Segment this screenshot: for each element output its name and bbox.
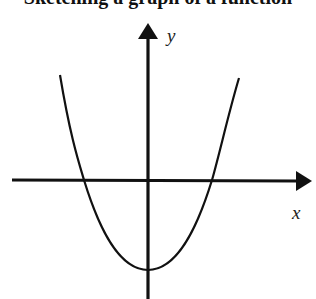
- y-axis: [138, 23, 158, 299]
- y-axis-label: y: [165, 25, 176, 46]
- x-axis-arrow-icon: [296, 171, 312, 191]
- y-axis-arrow-icon: [138, 23, 158, 39]
- x-axis-label: x: [291, 202, 301, 223]
- graph-diagram: y x: [0, 0, 316, 299]
- x-axis: [12, 171, 312, 191]
